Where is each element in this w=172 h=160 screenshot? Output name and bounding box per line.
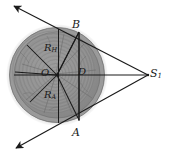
point-label-B: B [72, 19, 80, 30]
figure-container: B A O D S1 RH RA [0, 0, 172, 160]
point-label-O: O [41, 68, 49, 78]
point-label-s1-main: S [150, 67, 158, 80]
radius-label-ra-sub: A [52, 93, 57, 101]
geometry-diagram [0, 0, 172, 160]
radius-label-rh-main: R [44, 42, 52, 53]
radius-label-rh-sub: H [52, 46, 58, 54]
radius-label-ra: RA [44, 90, 56, 101]
radius-label-ra-main: R [44, 89, 52, 100]
point-dot-S1 [147, 74, 149, 76]
point-label-s1-sub: 1 [158, 71, 162, 80]
radius-label-rh: RH [44, 43, 57, 54]
point-label-A: A [72, 127, 80, 138]
dimension-label-D: D [78, 67, 86, 77]
point-dot-O [56, 74, 59, 77]
point-label-s1: S1 [150, 68, 162, 79]
